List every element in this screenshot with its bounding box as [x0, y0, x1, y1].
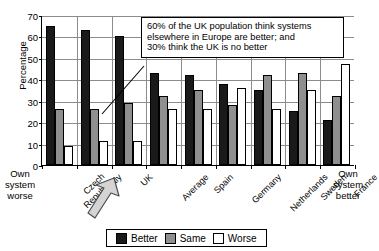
right-axis-note: Own system better — [326, 168, 370, 201]
bar-same — [159, 96, 168, 165]
x-axis-tick-mark — [112, 165, 113, 169]
bar-same — [332, 96, 341, 165]
callout-line-1: 60% of the UK population think systems — [147, 21, 338, 32]
bar-better — [46, 26, 55, 165]
y-axis-tick-label: 40 — [8, 75, 38, 86]
y-axis-tick-label: 20 — [8, 118, 38, 129]
legend-item-worse[interactable]: Worse — [213, 233, 257, 244]
x-axis-label-average: Average — [179, 172, 210, 203]
x-axis-tick-mark — [181, 165, 182, 169]
bar-same — [194, 90, 203, 165]
bar-group — [77, 16, 112, 165]
legend-swatch-better-icon — [116, 233, 127, 244]
bar-worse — [168, 109, 177, 165]
x-axis-tick-mark — [251, 165, 252, 169]
legend-swatch-worse-icon — [213, 233, 224, 244]
bar-better — [323, 120, 332, 165]
bar-worse — [237, 88, 246, 165]
callout-line-2: elsewhere in Europe are better; and — [147, 32, 338, 43]
bar-worse — [272, 109, 281, 165]
bar-worse — [64, 146, 73, 165]
y-axis-tick-label: 10 — [8, 139, 38, 150]
bar-worse — [133, 141, 142, 165]
x-axis-tick-mark — [285, 165, 286, 169]
right-axis-note-line-2: system — [326, 179, 370, 190]
bar-better — [254, 90, 263, 165]
bar-worse — [341, 64, 350, 165]
legend-label: Better — [131, 233, 158, 244]
bar-better — [81, 30, 90, 165]
bar-same — [90, 109, 99, 165]
callout-line-3: 30% think the UK is no better — [147, 42, 338, 53]
y-axis-tick-label: 60 — [8, 32, 38, 43]
x-axis-tick-mark — [77, 165, 78, 169]
x-axis-tick-mark — [42, 165, 43, 169]
bar-same — [124, 103, 133, 165]
bar-same — [263, 75, 272, 165]
left-axis-note: Own system worse — [0, 168, 40, 201]
left-axis-note-line-3: worse — [0, 190, 40, 201]
bar-group — [42, 16, 77, 165]
bar-same — [298, 73, 307, 165]
legend-item-same[interactable]: Same — [165, 233, 206, 244]
annotation-callout: 60% of the UK population think systems e… — [141, 17, 344, 58]
y-axis-tick-label: 70 — [8, 11, 38, 22]
bar-worse — [307, 90, 316, 165]
chart-legend: BetterSameWorse — [106, 229, 267, 247]
legend-swatch-same-icon — [165, 233, 176, 244]
legend-label: Worse — [228, 233, 257, 244]
x-axis-label-uk: UK — [139, 172, 155, 188]
y-axis-tick-label: 50 — [8, 53, 38, 64]
bar-better — [150, 73, 159, 165]
x-axis-label-line: Average — [179, 172, 210, 203]
bar-same — [55, 109, 64, 165]
legend-item-better[interactable]: Better — [116, 233, 158, 244]
bar-better — [219, 84, 228, 165]
x-axis-label-line: Spain — [211, 172, 234, 195]
x-axis-tick-mark — [320, 165, 321, 169]
bar-worse — [99, 141, 108, 165]
bar-worse — [203, 109, 212, 165]
right-axis-note-line-1: Own — [326, 168, 370, 179]
x-axis-label-line: UK — [139, 172, 155, 188]
bar-better — [289, 111, 298, 165]
x-axis-tick-mark — [146, 165, 147, 169]
right-axis-note-line-3: better — [326, 190, 370, 201]
uk-highlight-arrow — [87, 176, 121, 220]
left-axis-note-line-1: Own — [0, 168, 40, 179]
bar-better — [115, 36, 124, 165]
legend-label: Same — [180, 233, 206, 244]
bar-better — [185, 75, 194, 165]
x-axis-tick-mark — [216, 165, 217, 169]
x-axis-label-line: Germany — [250, 172, 283, 205]
x-axis-label-spain: Spain — [211, 172, 234, 195]
left-axis-note-line-2: system — [0, 179, 40, 190]
y-axis-tick-label: 30 — [8, 96, 38, 107]
bar-same — [228, 105, 237, 165]
x-axis-label-germany: Germany — [250, 172, 283, 205]
